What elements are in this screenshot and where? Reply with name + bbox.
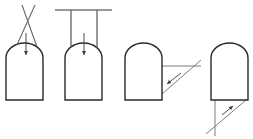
panel-2 bbox=[55, 10, 112, 100]
guide-line bbox=[206, 100, 246, 134]
arch-block-shape bbox=[211, 43, 248, 100]
diagram-svg bbox=[0, 0, 253, 139]
diagram-canvas bbox=[0, 0, 253, 139]
panel-4 bbox=[206, 43, 248, 136]
guide-line bbox=[162, 60, 201, 94]
guide-line bbox=[16, 5, 35, 47]
arch-block-shape bbox=[125, 43, 162, 100]
panel-1 bbox=[6, 5, 43, 100]
panel-3 bbox=[125, 43, 201, 100]
guide-line bbox=[22, 5, 37, 47]
